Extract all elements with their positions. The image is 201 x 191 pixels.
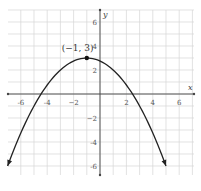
x-tick-label: 2 — [124, 99, 128, 107]
parabola-graph: -6-4−2246642−2-4-6 x y (−1, 3) — [0, 0, 201, 191]
y-axis-label: y — [102, 10, 108, 19]
grid — [8, 10, 194, 175]
y-tick-label: -6 — [90, 163, 97, 171]
y-tick-label: 6 — [93, 19, 98, 27]
vertex-label: (−1, 3) — [62, 43, 94, 53]
y-tick-label: -4 — [90, 139, 97, 147]
x-tick-label: -6 — [17, 99, 24, 107]
x-tick-label: −2 — [68, 99, 78, 107]
curve-arrow-left — [7, 160, 12, 166]
y-tick-label: 2 — [93, 67, 97, 75]
x-tick-label: -4 — [44, 99, 51, 107]
curve-arrow-right — [162, 160, 167, 166]
x-axis-arrow-right — [193, 93, 195, 95]
x-tick-label: 4 — [151, 99, 156, 107]
x-axis-label: x — [188, 83, 193, 92]
x-tick-label: 6 — [177, 99, 182, 107]
y-axis-arrow-bottom — [99, 174, 101, 176]
vertex-point — [85, 56, 89, 60]
x-axis-arrow-left — [7, 93, 9, 95]
y-tick-label: −2 — [87, 115, 97, 123]
y-axis-arrow-top — [99, 9, 101, 11]
